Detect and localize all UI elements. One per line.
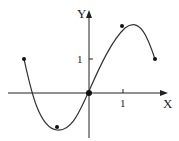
function-graph: 1 1 X Y bbox=[0, 0, 179, 141]
data-point bbox=[120, 24, 124, 28]
data-point bbox=[55, 125, 59, 129]
data-point bbox=[153, 57, 157, 61]
data-point bbox=[22, 57, 26, 61]
x-axis-label: X bbox=[163, 96, 173, 111]
y-axis-label: Y bbox=[77, 6, 87, 21]
x-tick-label: 1 bbox=[120, 97, 126, 109]
chart-svg: 1 1 X Y bbox=[0, 0, 179, 141]
y-tick-label: 1 bbox=[77, 53, 83, 65]
y-axis-arrow-icon bbox=[86, 10, 92, 18]
data-point-origin bbox=[86, 90, 92, 96]
